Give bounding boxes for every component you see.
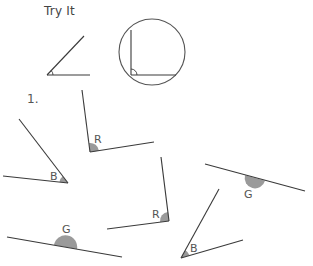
example-acute-angle — [47, 36, 90, 75]
angle-r-top: R — [82, 90, 154, 152]
angle-r-center: R — [107, 157, 169, 229]
angle-label: R — [94, 133, 102, 146]
angle-label: G — [62, 223, 71, 236]
angle-label: B — [190, 242, 198, 255]
angle-label: G — [244, 188, 253, 201]
angle-g-right: G — [205, 164, 305, 201]
angle-b-left: B — [3, 119, 68, 183]
angle-label: B — [50, 170, 58, 183]
angle-g-bottom: G — [7, 223, 122, 257]
angles-figure: B R R G G B — [0, 0, 313, 266]
angle-label: R — [152, 208, 160, 221]
example-right-angle-circle — [119, 19, 185, 85]
angle-b-bottom: B — [181, 189, 243, 258]
